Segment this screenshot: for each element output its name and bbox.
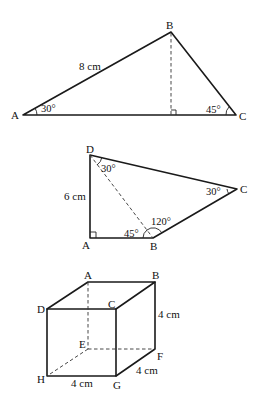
vertex-d-label: D: [86, 143, 94, 155]
geometry-figures: A B C 8 cm 30° 45° D A B C 6 cm 30° 30° …: [0, 0, 265, 402]
angle-b-outer-arc: [147, 228, 162, 233]
cube-vertex-c: C: [108, 298, 115, 310]
cube-vertex-d: D: [37, 303, 45, 315]
angle-d-value: 30°: [101, 163, 116, 174]
cube-vertex-h: H: [37, 373, 45, 385]
vertex-a-label-2: A: [82, 239, 90, 251]
cube-vertex-b: B: [152, 269, 159, 281]
cube-top-edges: [47, 282, 155, 309]
cube-vertex-e: E: [79, 338, 86, 350]
quadrilateral-abcd-figure: D A B C 6 cm 30° 30° 45° 120°: [64, 143, 247, 252]
angle-c-arc-2: [227, 189, 229, 194]
angle-c-arc: [226, 107, 229, 115]
cube-vertex-g: G: [113, 379, 121, 391]
right-angle-marker-a: [90, 232, 96, 238]
vertex-b-label: B: [166, 19, 173, 31]
angle-b-inner-arc: [143, 230, 147, 238]
side-da-length: 6 cm: [64, 190, 86, 202]
edge-gf-length: 4 cm: [136, 364, 158, 376]
side-ab-length: 8 cm: [79, 60, 101, 72]
vertex-a-label: A: [11, 109, 19, 121]
angle-a-value: 30°: [41, 103, 56, 114]
angle-c-value: 45°: [206, 104, 221, 115]
edge-hg-length: 4 cm: [71, 377, 93, 389]
triangle-abc-figure: A B C 8 cm 30° 45°: [11, 19, 246, 122]
vertex-b-label-2: B: [150, 240, 157, 252]
vertex-c-label: C: [239, 110, 246, 122]
cube-vertex-a: A: [84, 269, 92, 281]
cube-figure: A B C D E F G H 4 cm 4 cm 4 cm: [37, 269, 180, 391]
angle-a-arc: [35, 108, 37, 115]
angle-c-value-2: 30°: [206, 186, 221, 197]
vertex-c-label-2: C: [240, 183, 247, 195]
angle-b-outer-value: 120°: [151, 216, 171, 227]
cube-vertex-f: F: [157, 350, 163, 362]
angle-b-inner-value: 45°: [124, 228, 139, 239]
hidden-edge-eh: [47, 349, 88, 376]
edge-bf-length: 4 cm: [158, 308, 180, 320]
